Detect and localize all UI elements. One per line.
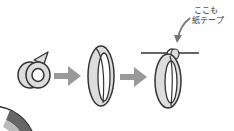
annotation-line-1: ここも: [192, 6, 224, 16]
arrow-right-icon: [54, 66, 81, 86]
pointer-arrow-icon: [174, 18, 190, 43]
tape-roll-icon: [18, 52, 50, 88]
annotation-note: ここも 紙テープ: [192, 6, 224, 26]
arrow-right-icon: [120, 67, 147, 87]
tape-loop-icon: [88, 46, 114, 106]
tape-loop-hung-icon: [155, 54, 181, 108]
partial-circle-graphic: [0, 106, 36, 131]
annotation-line-2: 紙テープ: [192, 16, 224, 26]
